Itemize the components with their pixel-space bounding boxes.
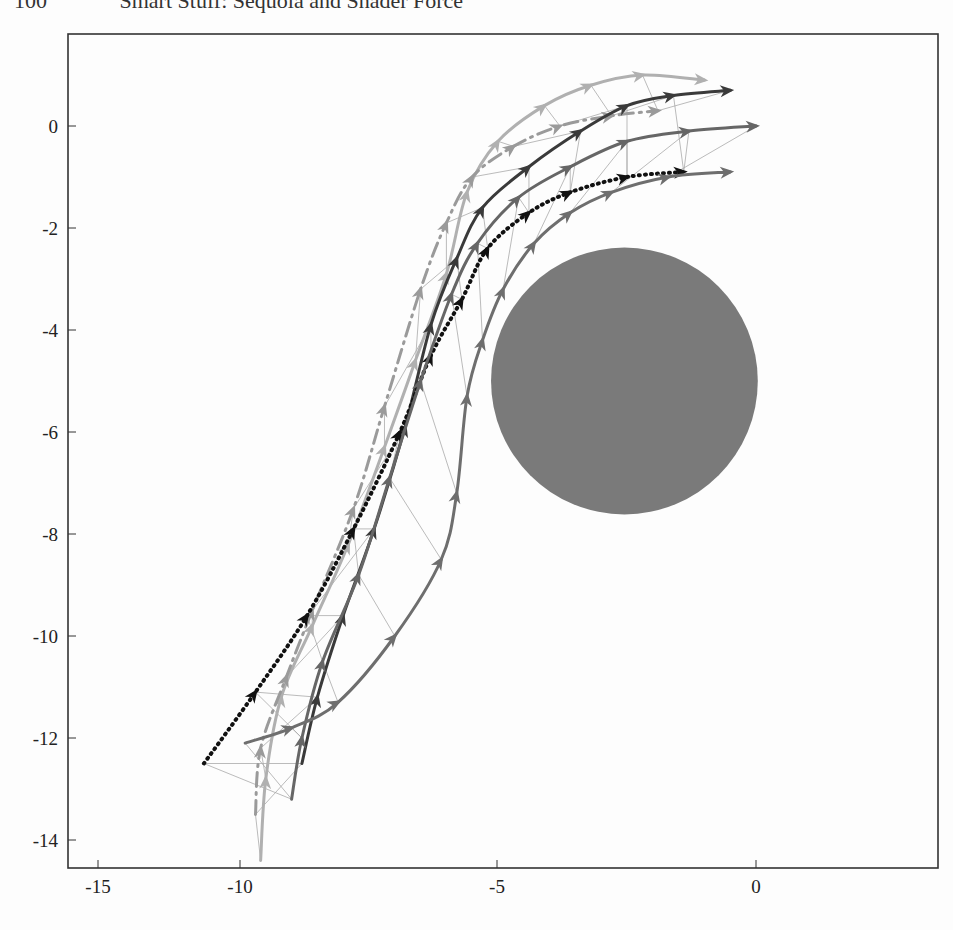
y-tick-label: -14 bbox=[33, 830, 59, 851]
arrowhead-icon bbox=[517, 206, 535, 224]
arrowhead-icon bbox=[559, 185, 577, 202]
y-tick-label: -10 bbox=[33, 626, 58, 647]
arrowhead-icon bbox=[502, 139, 520, 157]
arrowhead-icon bbox=[376, 401, 392, 418]
plot-frame bbox=[68, 34, 938, 868]
formation-link bbox=[421, 381, 457, 493]
y-tick-label: -6 bbox=[42, 422, 58, 443]
x-tick-label: -5 bbox=[489, 876, 505, 897]
arrowhead-icon bbox=[600, 185, 618, 202]
arrowhead-icon bbox=[559, 206, 577, 224]
arrowhead-icon bbox=[474, 335, 489, 352]
arrowhead-icon bbox=[349, 569, 365, 587]
y-tick-label: -4 bbox=[42, 320, 58, 341]
formation-link bbox=[312, 529, 374, 611]
circular-obstacle bbox=[491, 248, 758, 515]
y-tick-label: 0 bbox=[49, 116, 59, 137]
arrowhead-icon bbox=[437, 217, 453, 234]
formation-link bbox=[390, 478, 442, 560]
formation-link bbox=[519, 197, 529, 212]
formation-link bbox=[204, 764, 292, 800]
y-tick-label: -2 bbox=[42, 218, 58, 239]
arrowhead-icon bbox=[494, 283, 510, 300]
formation-link bbox=[668, 126, 756, 177]
formation-link bbox=[534, 167, 570, 244]
arrowhead-icon bbox=[431, 553, 449, 571]
arrowhead-icon bbox=[548, 119, 566, 136]
x-tick-label: 0 bbox=[751, 876, 761, 897]
y-axis: 0-2-4-6-8-10-12-14 bbox=[33, 116, 76, 851]
arrowhead-icon bbox=[533, 98, 551, 116]
trajectory-chart: -15-10-50 0-2-4-6-8-10-12-14 bbox=[0, 0, 953, 930]
formation-link bbox=[452, 294, 467, 396]
formation-link bbox=[359, 575, 395, 636]
obstacle-circle bbox=[491, 248, 758, 515]
arrowhead-icon bbox=[579, 78, 597, 95]
arrowhead-icon bbox=[615, 134, 633, 151]
arrowhead-icon bbox=[569, 124, 587, 142]
formation-link bbox=[544, 106, 559, 126]
x-tick-label: -10 bbox=[227, 876, 252, 897]
y-tick-label: -8 bbox=[42, 524, 58, 545]
y-tick-label: -12 bbox=[33, 728, 58, 749]
formation-link bbox=[292, 728, 302, 738]
x-axis: -15-10-50 bbox=[85, 860, 760, 897]
formation-link bbox=[286, 616, 343, 677]
formation-link bbox=[642, 75, 657, 111]
formation-link bbox=[255, 692, 317, 697]
x-tick-label: -15 bbox=[85, 876, 110, 897]
arrowhead-icon bbox=[245, 685, 263, 703]
